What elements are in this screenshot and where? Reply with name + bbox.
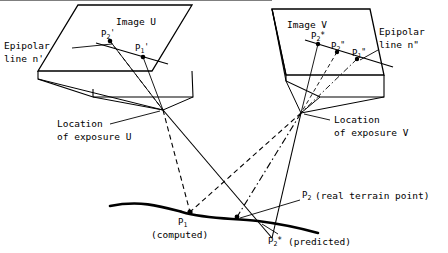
point-p2-real-dot	[235, 215, 240, 220]
cone-v-edge-left	[286, 81, 301, 113]
epipolar-right-line2: line n"	[379, 39, 419, 51]
location-v-line1: Location	[334, 114, 380, 126]
label-p2-dprime-sup: "	[340, 41, 345, 50]
label-p1-prime: P1'	[135, 42, 149, 57]
ray-v-p2dprime-to-exposure	[301, 52, 337, 113]
label-p1-prime-sup: '	[144, 43, 149, 52]
label-p2-star-sup: *	[320, 31, 325, 40]
label-p1-dprime-sup: "	[361, 48, 366, 57]
point-p1-computed-dot	[187, 209, 192, 214]
label-p2-real: P2	[302, 189, 311, 204]
epipolar-line-n-prime	[96, 43, 168, 64]
epipolar-left-line2: line n'	[4, 53, 44, 65]
cone-u-edge-mid	[93, 97, 163, 110]
leader-p2-real	[240, 200, 300, 218]
terrain-profile-curve	[110, 204, 318, 233]
cone-u	[38, 79, 193, 110]
label-p1-computed-sub: 1	[183, 221, 187, 229]
ray-v-p2star-to-exposure	[301, 44, 318, 113]
location-u-line1: Location	[57, 118, 103, 130]
label-p2-predicted-note: (predicted)	[288, 236, 351, 248]
ray-v-to-p2-predicted	[272, 113, 301, 238]
image-u-skirt-edges	[38, 71, 193, 97]
leader-location-exposure-u	[110, 111, 160, 124]
cone-v-edge-right	[301, 97, 384, 113]
label-p2-prime-sup: '	[110, 29, 115, 38]
cone-v-edge-mid	[301, 97, 320, 113]
image-u-title: Image U	[116, 16, 156, 28]
ray-u-p1prime-to-exposure	[143, 57, 163, 110]
ray-v-to-p1-computed	[190, 113, 301, 212]
label-p2-real-note: (real terrain point)	[315, 190, 429, 202]
image-v-skirt-edges	[286, 75, 384, 97]
image-v-left-fold-2	[272, 9, 286, 81]
label-p2-double-prime: P2"	[331, 40, 345, 55]
location-u-line2: of exposure U	[57, 131, 131, 143]
ray-v-p1dprime-to-exposure	[301, 59, 357, 113]
label-p1-computed-note: (computed)	[151, 229, 208, 241]
rays-in-image-v	[301, 44, 357, 113]
label-p2-predicted-sup: *	[277, 236, 282, 245]
epipolar-left-line1: Epipolar	[4, 40, 50, 52]
cone-u-edge-left	[38, 79, 163, 110]
label-p2-predicted: P2*	[268, 235, 282, 250]
location-v-line2: of exposure V	[334, 127, 408, 139]
epipolar-right-line1: Epipolar	[379, 26, 425, 38]
image-u-skirt	[38, 71, 193, 97]
leader-location-exposure-v	[304, 114, 330, 120]
label-p2-real-sub: 2	[307, 194, 311, 202]
label-p2-star-image-v: P2*	[311, 30, 325, 45]
diagram-canvas: Image U Image V Epipolar line n' Epipola…	[0, 0, 448, 253]
label-p2-prime: P2'	[101, 28, 115, 43]
label-p1-double-prime: P1"	[352, 47, 366, 62]
cone-u-edge-right	[163, 97, 193, 110]
ray-v-to-p2-real	[237, 113, 301, 217]
